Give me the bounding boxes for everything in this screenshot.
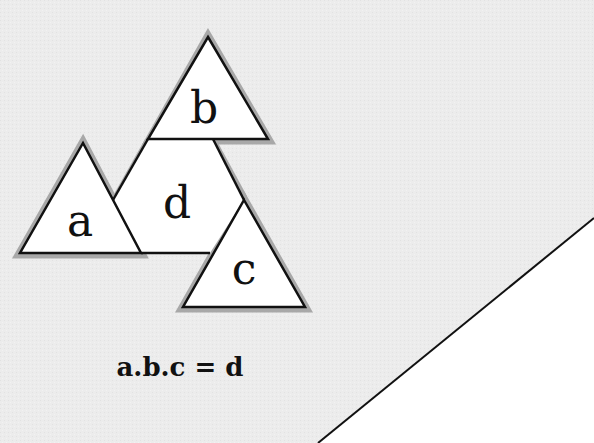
equation-text: a.b.c = d xyxy=(116,352,243,382)
label-c: c xyxy=(232,243,257,294)
diagram-canvas: b a d c a.b.c = d xyxy=(0,0,594,443)
label-a: a xyxy=(67,195,93,246)
label-d: d xyxy=(163,177,191,228)
label-b: b xyxy=(190,82,218,133)
